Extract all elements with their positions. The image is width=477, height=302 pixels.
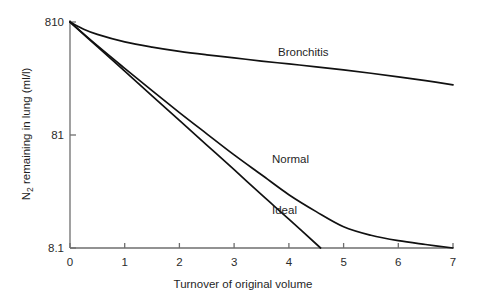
y-tick-label-8-1: 8.1: [48, 242, 64, 254]
series-label-bronchitis: Bronchitis: [278, 46, 329, 58]
x-tick-label-7: 7: [450, 256, 456, 268]
x-axis-title: Turnover of original volume: [174, 278, 313, 290]
x-tick-label-2: 2: [176, 256, 182, 268]
x-tick-label-1: 1: [121, 256, 127, 268]
x-tick-label-0: 0: [67, 256, 73, 268]
y-axis-title-rest: remaining in lung (ml/l): [20, 68, 32, 188]
series-line-normal: [70, 22, 453, 248]
x-tick-label-5: 5: [340, 256, 346, 268]
series-curves-group: [70, 22, 453, 248]
series-labels-group: Bronchitis Normal Ideal: [272, 46, 329, 216]
x-tick-label-6: 6: [395, 256, 401, 268]
series-label-ideal: Ideal: [272, 204, 297, 216]
y-axis-title-base: N: [20, 192, 32, 200]
series-line-bronchitis: [70, 22, 453, 85]
y-ticks-group: 810 81 8.1: [45, 16, 76, 254]
x-ticks-group: 0 1 2 3 4 5 6 7: [67, 243, 456, 268]
y-tick-label-81: 81: [51, 129, 64, 141]
nitrogen-washout-chart: 810 81 8.1 0 1 2 3 4 5 6 7: [0, 0, 477, 302]
chart-figure: 810 81 8.1 0 1 2 3 4 5 6 7: [0, 0, 477, 302]
axes-group: [70, 20, 453, 248]
x-tick-label-4: 4: [286, 256, 293, 268]
y-axis-title: N2 remaining in lung (ml/l): [20, 68, 35, 201]
series-label-normal: Normal: [272, 153, 309, 165]
y-tick-label-810: 810: [45, 16, 64, 28]
x-tick-label-3: 3: [231, 256, 237, 268]
